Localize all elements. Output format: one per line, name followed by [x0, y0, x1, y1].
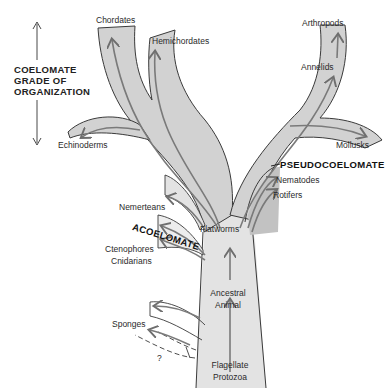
phylogeny-diagram: COELOMATE GRADE OF ORGANIZATION Chordate… — [0, 0, 387, 391]
grade-line-1: COELOMATE — [14, 64, 90, 75]
label-cnidarians: Cnidarians — [111, 257, 152, 266]
grade-line-3: ORGANIZATION — [14, 86, 90, 97]
flagellate-line-2: Protozoa — [200, 373, 260, 382]
tree-graphic — [0, 0, 387, 391]
label-nemerteans: Nemerteans — [119, 203, 165, 212]
label-hemichordates: Hemichordates — [152, 37, 209, 46]
label-sponges: Sponges — [112, 320, 146, 329]
label-annelids: Annelids — [301, 63, 334, 72]
label-flatworms: Flatworms — [200, 225, 239, 234]
label-arthropods: Arthropods — [302, 19, 344, 28]
label-flagellate-protozoa: Flagellate Protozoa — [200, 361, 260, 381]
coelomate-grade-label: COELOMATE GRADE OF ORGANIZATION — [14, 64, 90, 97]
label-chordates: Chordates — [96, 16, 135, 25]
label-pseudocoelomate: PSEUDOCOELOMATE — [280, 160, 385, 170]
flagellate-line-1: Flagellate — [200, 361, 260, 370]
label-rotifers: Rotifers — [273, 191, 302, 200]
grade-line-2: GRADE OF — [14, 75, 90, 86]
label-nematodes: Nematodes — [276, 176, 319, 185]
ancestral-line-1: Ancestral — [198, 289, 258, 298]
label-ancestral-animal: Ancestral Animal — [198, 289, 258, 309]
ancestral-line-2: Animal — [198, 301, 258, 310]
label-ctenophores: Ctenophores — [105, 245, 154, 254]
label-echinoderms: Echinoderms — [58, 141, 108, 150]
protostome-branch — [230, 25, 382, 220]
label-mollusks: Mollusks — [336, 141, 369, 150]
label-unknown-origin: ? — [157, 354, 162, 363]
